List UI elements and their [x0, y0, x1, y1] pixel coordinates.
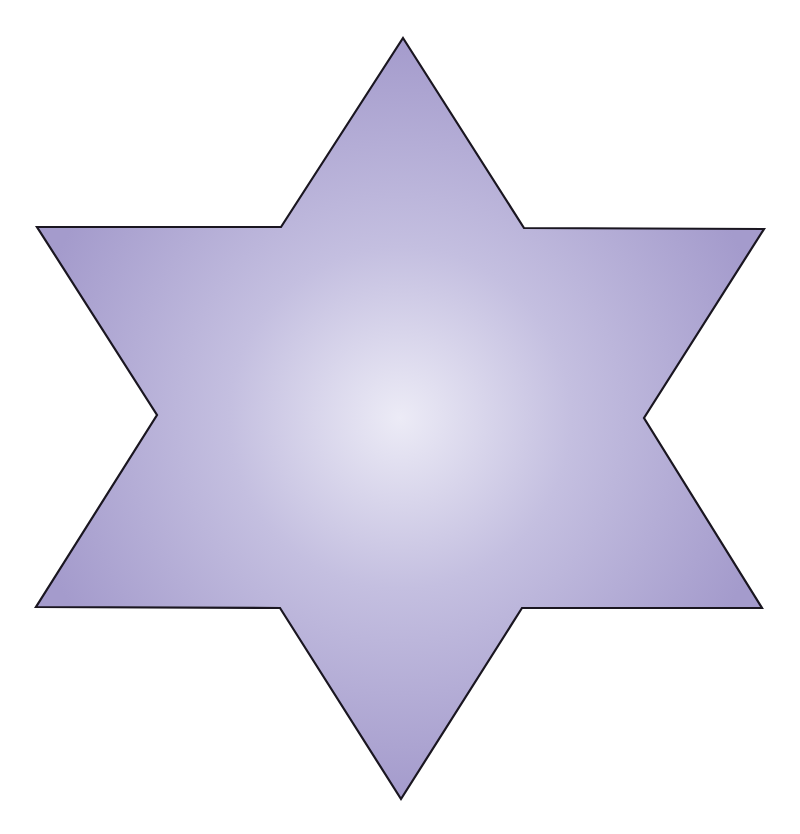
six-pointed-star-shape: [36, 38, 764, 799]
star-diagram: [0, 0, 800, 834]
